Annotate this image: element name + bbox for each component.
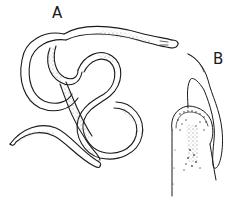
worm-drawing bbox=[0, 0, 231, 206]
panel-a-worm bbox=[10, 26, 178, 167]
illustration-figure: A B bbox=[0, 0, 231, 206]
panel-label-a: A bbox=[52, 6, 62, 21]
panel-a-shading bbox=[20, 30, 150, 164]
panel-label-b: B bbox=[213, 52, 223, 67]
panel-b-detail bbox=[172, 54, 223, 196]
